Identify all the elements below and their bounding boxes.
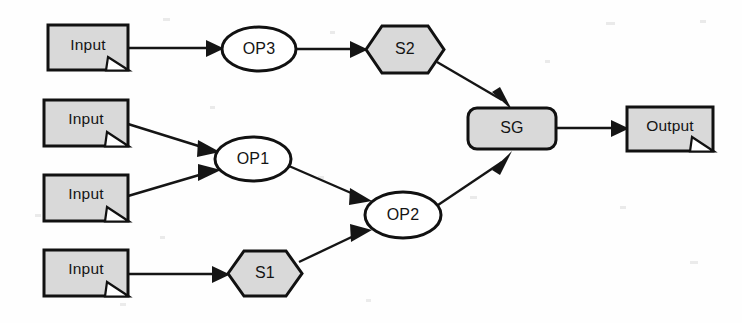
node-op1[interactable]: OP1 — [215, 137, 291, 181]
node-input1-label: Input — [70, 36, 106, 53]
scan-artifacts — [35, 18, 706, 306]
flow-diagram: Input Input Input Input OP3 — [0, 0, 742, 323]
node-input4-label: Input — [68, 260, 104, 277]
node-input4[interactable]: Input — [44, 250, 129, 297]
node-sg[interactable]: SG — [468, 108, 556, 149]
node-op2-label: OP2 — [387, 206, 420, 223]
node-s2[interactable]: S2 — [366, 26, 444, 73]
edge-op3-to-s2 — [296, 41, 368, 58]
node-s1[interactable]: S1 — [228, 251, 302, 296]
edge-input4-to-s1 — [128, 266, 230, 283]
node-input3[interactable]: Input — [44, 175, 129, 222]
edge-input2-to-op1 — [128, 124, 220, 157]
node-op3-label: OP3 — [243, 40, 276, 57]
edge-input3-to-op1 — [128, 164, 221, 196]
edge-input1-to-op3 — [128, 40, 224, 57]
node-op3[interactable]: OP3 — [222, 27, 296, 71]
node-op1-label: OP1 — [237, 150, 270, 167]
node-sg-label: SG — [500, 119, 524, 136]
node-input2[interactable]: Input — [44, 100, 129, 147]
node-s1-label: S1 — [255, 264, 275, 281]
node-s2-label: S2 — [395, 40, 415, 57]
node-input3-label: Input — [68, 185, 104, 202]
node-output-label: Output — [646, 117, 694, 134]
edge-sg-to-output — [556, 120, 629, 137]
node-input1[interactable]: Input — [48, 25, 129, 71]
edge-s2-to-sg — [437, 62, 512, 110]
edge-s1-to-op2 — [299, 224, 372, 262]
node-input2-label: Input — [68, 110, 104, 127]
node-output[interactable]: Output — [627, 107, 714, 152]
node-op2[interactable]: OP2 — [365, 192, 441, 238]
edge-op1-to-op2 — [289, 166, 372, 205]
diagram-canvas: Input Input Input Input OP3 — [0, 0, 742, 323]
